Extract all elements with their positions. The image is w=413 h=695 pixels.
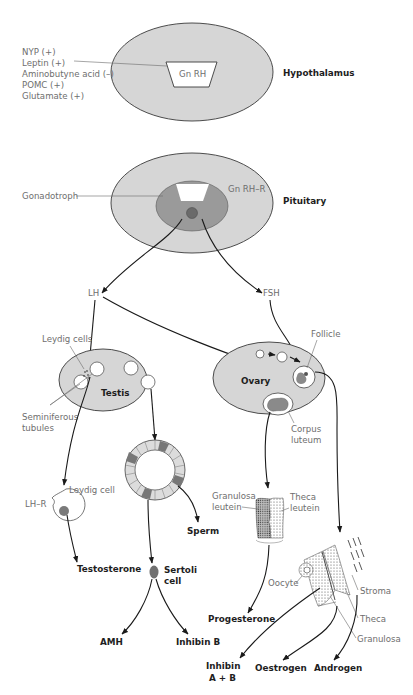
inhibin-b-label: Inhibin B — [176, 637, 220, 647]
arrow-to-sertoli — [148, 500, 152, 563]
seminiferous-tubule — [141, 375, 155, 389]
luteal-bracket — [256, 540, 283, 543]
stroma-label: Stroma — [360, 586, 391, 596]
corpus-luteum-leader — [288, 411, 294, 423]
arrow-to-amh — [122, 579, 152, 634]
sertoli-label-line2: cell — [164, 576, 181, 586]
primordial-follicle — [256, 350, 264, 358]
progesterone-label: Progesterone — [208, 614, 275, 624]
testosterone-label: Testosterone — [77, 564, 141, 574]
gonadotroph-label: Gonadotroph — [22, 191, 78, 201]
inhibin-ab-label-line1: Inhibin — [206, 661, 240, 671]
hypothalamus-group: Gn RH Hypothalamus NYP (+) Leptin (+) Am… — [22, 23, 354, 121]
leydig-cell-nucleus — [59, 506, 69, 516]
tubule-lumen — [135, 450, 175, 490]
granulosa-leutein-leader — [242, 507, 258, 509]
testis-label: Testis — [101, 388, 130, 398]
gnrh-receptor-label: Gn RH–R — [228, 184, 266, 194]
pituitary-label: Pituitary — [283, 196, 326, 206]
granulosa-leutein-tissue — [256, 498, 271, 538]
leydig-cell-label: Leydig cell — [69, 485, 115, 495]
sertoli-label-line1: Sertoli — [164, 565, 197, 575]
granulosa-label: Granulosa — [357, 634, 401, 644]
follicle-wall-detail: Oocyte Stroma Theca Granulosa — [268, 537, 401, 644]
arrow-to-sperm — [178, 486, 198, 522]
arrow-to-testosterone — [67, 515, 77, 562]
sperm-label: Sperm — [187, 526, 219, 536]
modulator-glutamate: Glutamate (+) — [22, 91, 84, 101]
arrow-to-androgen — [334, 595, 357, 660]
gnrh-label: Gn RH — [179, 69, 206, 79]
seminiferous-tubule — [90, 362, 104, 376]
growing-follicle — [277, 352, 287, 362]
hypothalamus-label: Hypothalamus — [283, 68, 354, 78]
hpg-axis-diagram: Gn RH Hypothalamus NYP (+) Leptin (+) Am… — [0, 0, 413, 695]
sertoli-cell — [150, 566, 159, 579]
lh-label: LH — [88, 288, 99, 298]
amh-label: AMH — [100, 637, 123, 647]
theca-leutein-label-line2: leutein — [290, 503, 320, 513]
modulator-leptin: Leptin (+) — [22, 58, 65, 68]
arrow-to-oestrogen — [283, 606, 337, 660]
arrow-to-progesterone — [248, 545, 269, 613]
corpus-luteum-label-line1: Corpus — [291, 424, 322, 434]
seminiferous-label-line2: tubules — [22, 423, 54, 433]
testis-ellipse — [59, 349, 147, 411]
arrow-to-tubule-section — [151, 389, 155, 440]
seminiferous-label-line1: Seminiferous — [22, 412, 79, 422]
modulator-nyp: NYP (+) — [22, 47, 56, 57]
tubule-cross-section — [125, 440, 185, 500]
ovary-label: Ovary — [241, 376, 270, 386]
seminiferous-tubule — [124, 361, 138, 375]
granulosa-leutein-label-line1: Granulosa — [212, 491, 256, 501]
arrow-to-inhibin-b — [156, 579, 188, 634]
fsh-label: FSH — [263, 288, 280, 298]
oestrogen-label: Oestrogen — [255, 663, 307, 673]
stroma-leader — [352, 575, 358, 590]
leydig-cell-group: Leydig cell LH–R — [25, 485, 115, 521]
arrow-to-luteal-cells — [265, 412, 270, 488]
modulator-pomc: POMC (+) — [22, 80, 64, 90]
oocyte-cell — [304, 567, 310, 573]
follicle-oocyte — [304, 372, 308, 376]
gonadotroph-nucleus — [187, 208, 198, 219]
inhibin-ab-label-line2: A + B — [209, 673, 236, 683]
corpus-luteum-core — [267, 398, 288, 411]
follicle-label: Follicle — [311, 329, 340, 339]
stroma-dashes — [348, 537, 364, 572]
pituitary-group: Gn RH–R Pituitary Gonadotroph — [22, 153, 326, 253]
androgen-label: Androgen — [314, 663, 362, 673]
corpus-luteum-label-line2: luteum — [291, 435, 321, 445]
leydig-cells-label: Leydig cells — [42, 334, 93, 344]
modulator-aminobutyne-acid: Aminobutyne acid (–) — [22, 69, 114, 79]
ovary-group: Ovary Follicle Corpus luteum — [213, 329, 340, 445]
granulosa-leutein-label-line2: leutein — [212, 502, 242, 512]
lh-receptor-label: LH–R — [25, 499, 47, 509]
luteal-tissue: Granulosa leutein Theca leutein — [212, 491, 320, 543]
theca-label: Theca — [359, 614, 386, 624]
oocyte-label: Oocyte — [268, 578, 299, 588]
theca-leutein-tissue — [269, 498, 284, 538]
theca-leutein-label-line1: Theca — [289, 492, 316, 502]
